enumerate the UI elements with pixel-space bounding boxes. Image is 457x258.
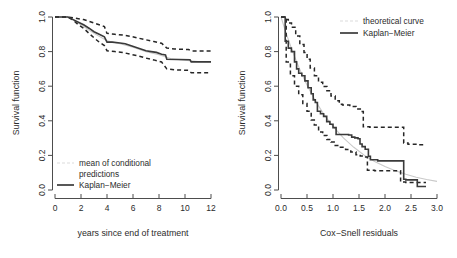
right-xtick-2: 1.0 xyxy=(327,203,339,213)
left-ytick-5: 1.0 xyxy=(37,11,47,23)
right-xtick-3: 1.5 xyxy=(353,203,365,213)
left-ytick-4: 0.8 xyxy=(37,45,47,57)
panel-right: 0.0 0.2 0.4 0.6 0.8 1.0 Survival functio… xyxy=(228,0,457,258)
right-xtick-1: 0.5 xyxy=(301,203,313,213)
left-ytick-3: 0.6 xyxy=(37,80,47,92)
figure-container: 0.0 0.2 0.4 0.6 0.8 1.0 Survival functio… xyxy=(0,0,457,258)
left-y-ticks xyxy=(48,17,53,190)
left-curves xyxy=(55,17,211,73)
left-ytick-1: 0.2 xyxy=(37,149,47,161)
panel-right-svg: 0.0 0.2 0.4 0.6 0.8 1.0 Survival functio… xyxy=(228,0,457,258)
panel-left: 0.0 0.2 0.4 0.6 0.8 1.0 Survival functio… xyxy=(0,0,228,258)
left-ytick-0: 0.0 xyxy=(37,184,47,196)
right-xtick-5: 2.5 xyxy=(405,203,417,213)
left-xtick-6: 12 xyxy=(206,203,216,213)
right-ytick-4: 0.8 xyxy=(263,45,273,57)
right-ytick-2: 0.4 xyxy=(263,115,273,127)
right-y-ticks xyxy=(274,17,279,190)
right-ytick-5: 1.0 xyxy=(263,11,273,23)
right-y-axis-title: Survival function xyxy=(237,71,247,136)
right-x-ticks xyxy=(281,194,437,199)
left-x-ticks xyxy=(55,194,211,199)
right-legend-label-km: Kaplan−Meier xyxy=(363,28,415,38)
left-lower-ci-band xyxy=(55,17,211,73)
left-xtick-4: 8 xyxy=(157,203,162,213)
left-x-axis-title: years since end of treatment xyxy=(78,228,190,238)
left-xtick-3: 6 xyxy=(131,203,136,213)
right-xtick-6: 3.0 xyxy=(431,203,443,213)
right-xtick-0: 0.0 xyxy=(275,203,287,213)
right-ytick-1: 0.2 xyxy=(263,149,273,161)
left-legend-label-mean-1: mean of conditional xyxy=(79,158,151,168)
left-y-axis-title: Survival function xyxy=(11,71,21,136)
left-xtick-2: 4 xyxy=(105,203,110,213)
right-ytick-0: 0.0 xyxy=(263,184,273,196)
right-xtick-4: 2.0 xyxy=(379,203,391,213)
right-x-axis-title: Cox−Snell residuals xyxy=(320,228,399,238)
right-legend-label-theoretical: theoretical curve xyxy=(363,16,424,26)
right-lower-ci-band xyxy=(281,17,426,182)
right-ytick-3: 0.6 xyxy=(263,80,273,92)
right-curves xyxy=(281,17,437,187)
left-xtick-1: 2 xyxy=(79,203,84,213)
left-xtick-0: 0 xyxy=(53,203,58,213)
left-legend-label-mean-2: predictions xyxy=(79,169,119,179)
right-legend: theoretical curve Kaplan−Meier xyxy=(340,16,424,38)
panel-left-svg: 0.0 0.2 0.4 0.6 0.8 1.0 Survival functio… xyxy=(0,0,228,258)
left-legend-label-km: Kaplan−Meier xyxy=(79,180,131,190)
left-ytick-2: 0.4 xyxy=(37,115,47,127)
right-theoretical-curve xyxy=(281,17,437,181)
left-xtick-5: 10 xyxy=(180,203,190,213)
left-legend: mean of conditional predictions Kaplan−M… xyxy=(57,158,151,190)
